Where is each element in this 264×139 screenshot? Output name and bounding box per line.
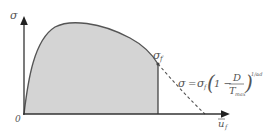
shaded-energy-area [24,23,158,114]
svg-text:f: f [224,123,229,131]
svg-text:D: D [232,72,241,83]
x-axis-label: u f [218,118,229,131]
softening-formula: σ = σ f ( 1 − D T max ) 1/αd [178,71,262,97]
svg-text:σ: σ [178,77,186,90]
svg-text:=: = [188,78,196,89]
y-axis-label: σ [10,9,18,22]
traction-separation-diagram: σ 0 σ f u f σ = σ f ( 1 − D T max ) 1/αd [0,0,264,139]
svg-text:f: f [159,55,164,63]
svg-text:1/αd: 1/αd [251,71,262,77]
sigma-f-label: σ f [153,49,164,63]
origin-label: 0 [15,114,21,124]
svg-text:u: u [218,118,224,129]
